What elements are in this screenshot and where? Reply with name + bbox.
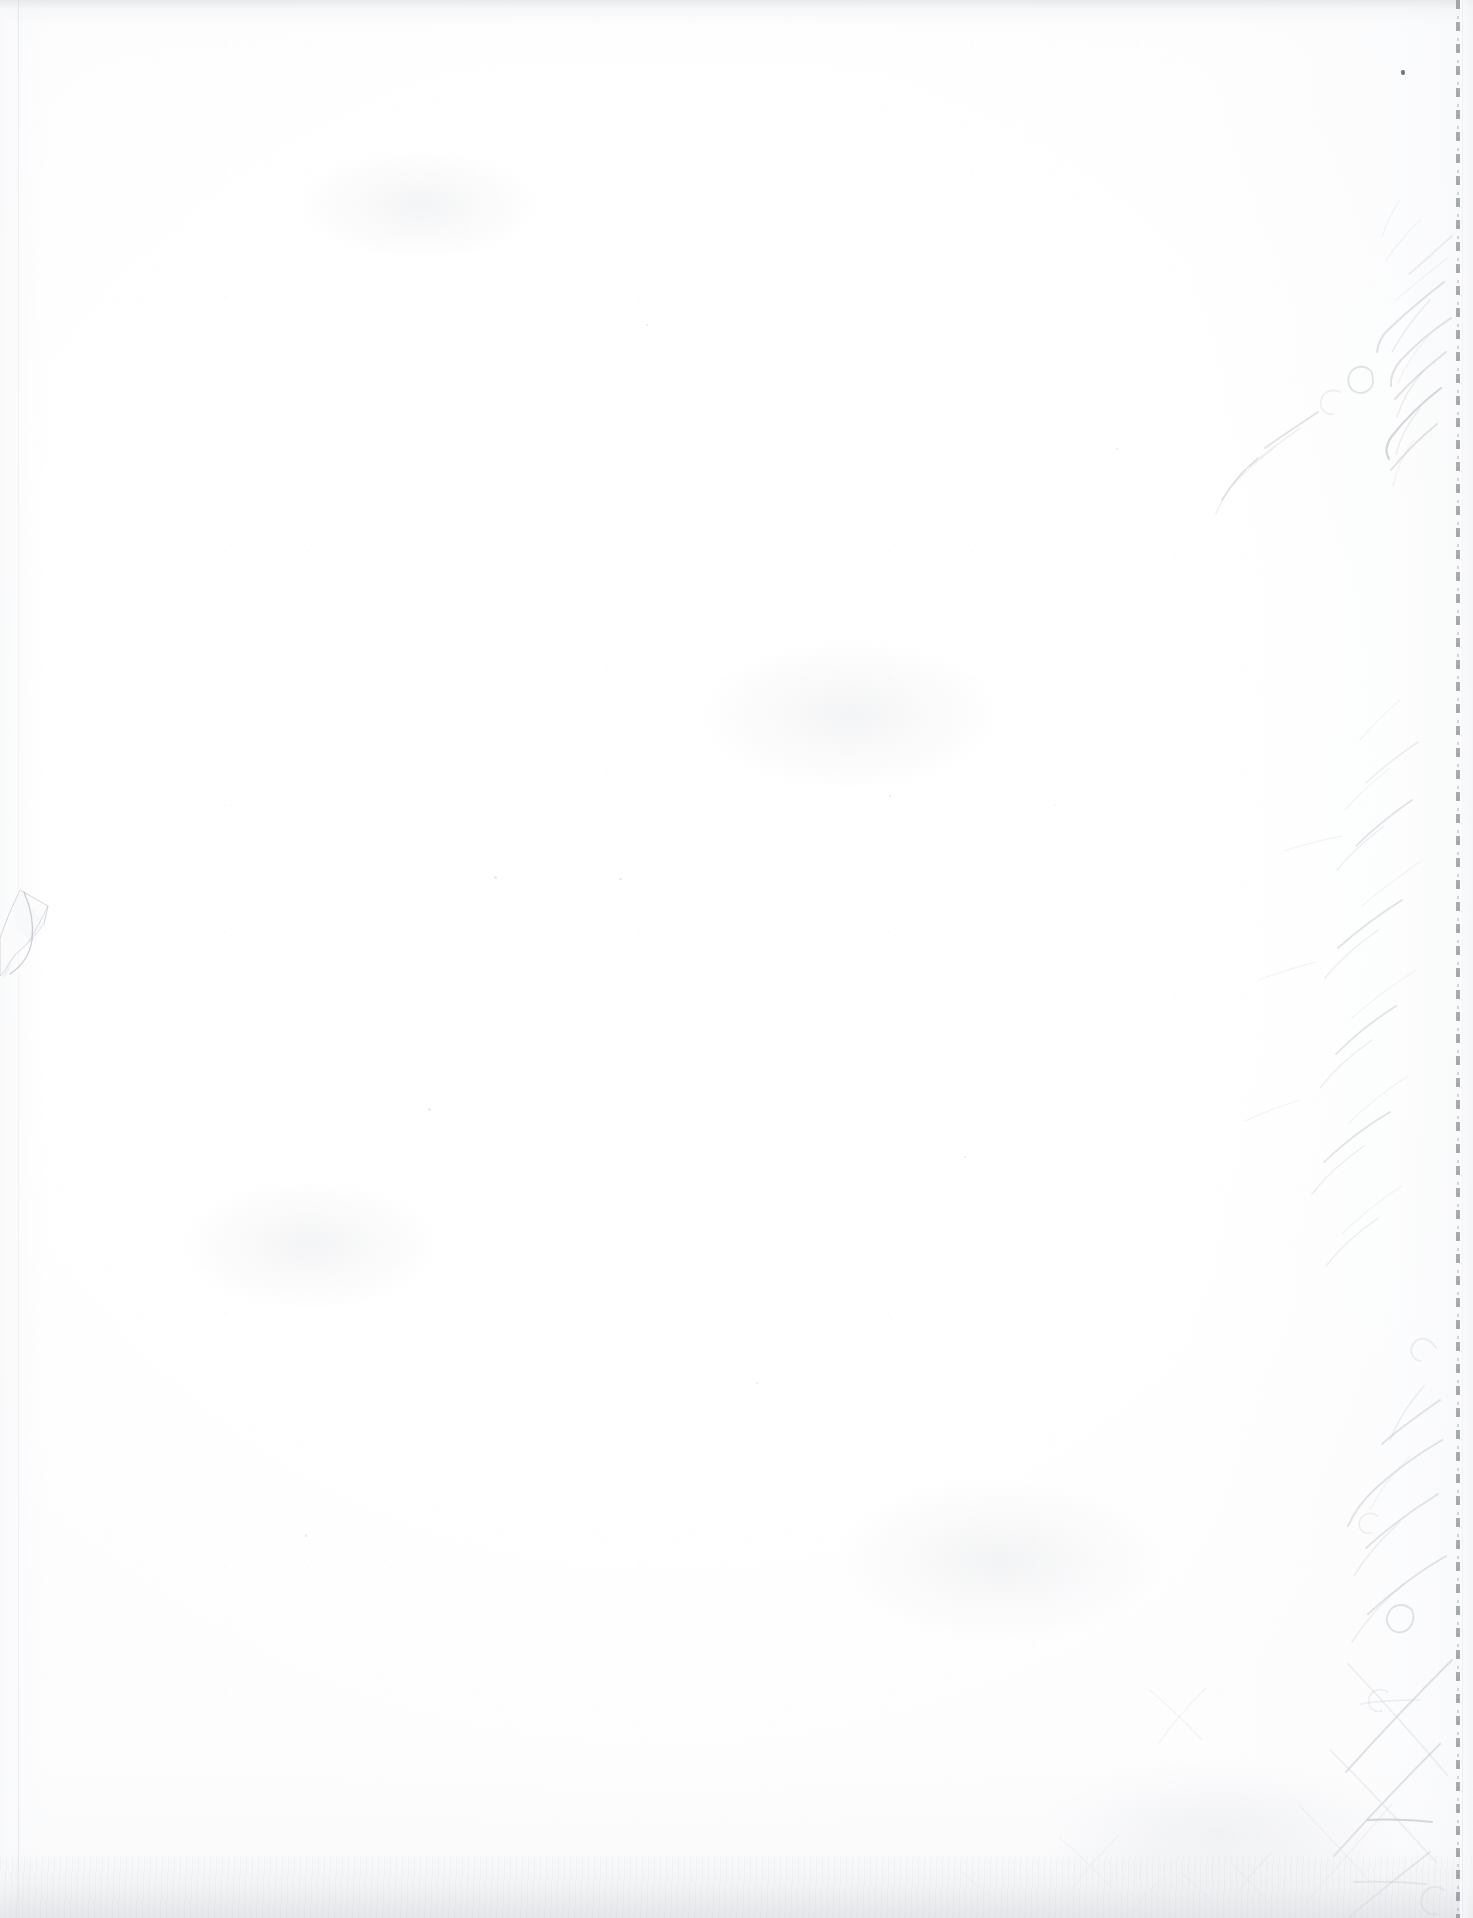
bottom-scan-band [0,1822,1473,1918]
dust-speck [756,1382,758,1384]
dust-speck [305,1534,307,1537]
perforation-crease [1462,0,1463,1918]
dust-speck [428,1108,431,1111]
dust-speck [889,795,891,797]
dust-speck [964,1156,966,1158]
scanner-speck [1401,70,1405,75]
torn-corner-flap [0,884,62,1006]
top-scan-band [0,0,1473,9]
dust-speck [1116,448,1118,450]
dust-speck [494,876,497,879]
perforation-dots [1457,5,1459,1913]
perforation-line [1456,0,1460,1918]
dust-speck [646,324,648,326]
scanned-page: Blank scanned notebook page with a perfo… [0,0,1473,1918]
paper-sheet [0,0,1473,1918]
dust-speck [619,878,622,880]
